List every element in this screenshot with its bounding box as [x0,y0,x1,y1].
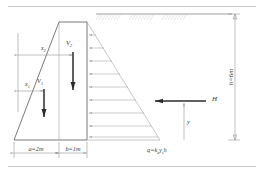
label-x2: x2 [40,45,46,53]
ground-hatch-marks [96,14,187,20]
label-height-6m: h=6m [227,69,234,85]
pressure-distribution [87,22,160,140]
ground-surface [96,14,232,20]
diagram-canvas: H y h=6m x2 x1 V2 [0,0,264,172]
label-V2: V2 [66,39,72,48]
label-base-b: b=1m [65,145,81,152]
label-H: H [211,95,218,103]
label-y: y [186,118,190,125]
label-pressure-formula: q=kaγsh [147,146,167,155]
label-base-a: a=2m [28,145,44,152]
pressure-arrows [89,35,158,137]
label-V1: V1 [37,77,43,86]
label-x1: x1 [24,81,30,89]
retaining-wall-figure: H y h=6m x2 x1 V2 [0,0,264,172]
